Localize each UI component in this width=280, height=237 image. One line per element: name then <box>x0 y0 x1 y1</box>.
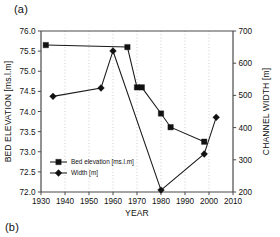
y-left-tick-label: 73.5 <box>20 128 36 137</box>
data-point-width <box>98 85 105 92</box>
y-right-tick-label: 500 <box>239 91 253 100</box>
x-tick-label: 2000 <box>200 197 219 206</box>
data-point-bed-elevation <box>202 139 207 144</box>
x-tick-label: 2010 <box>224 197 243 206</box>
x-tick-label: 1940 <box>56 197 75 206</box>
x-tick-label: 1970 <box>128 197 147 206</box>
y-left-tick-label: 73.0 <box>20 148 36 157</box>
data-point-width <box>110 48 117 55</box>
chart-legend: Bed elevation [ms.l.m]Width [m] <box>50 158 134 177</box>
axis-ticks <box>38 31 236 195</box>
data-point-width <box>213 114 220 121</box>
panel-label-a: (a) <box>14 3 28 15</box>
y-left-tick-label: 74.5 <box>20 87 36 96</box>
y-left-tick-label: 72.0 <box>20 188 36 197</box>
y-left-tick-label: 76.0 <box>20 27 36 36</box>
y-left-axis-title: BED ELEVATION [ms.l.m] <box>3 61 13 163</box>
legend-marker-square <box>56 159 61 164</box>
legend-item-width: Width [m] <box>71 169 98 177</box>
y-right-tick-label: 200 <box>239 188 253 197</box>
x-tick-label: 1980 <box>152 197 171 206</box>
data-point-bed-elevation <box>125 44 130 49</box>
line-chart: 19301940195019601970198019902000201072.0… <box>0 0 280 237</box>
x-tick-label: 1930 <box>32 197 51 206</box>
x-tick-label: 1960 <box>104 197 123 206</box>
data-point-bed-elevation <box>134 85 139 90</box>
x-tick-label: 1990 <box>176 197 195 206</box>
y-right-tick-label: 600 <box>239 59 253 68</box>
data-point-width <box>50 93 57 100</box>
data-series <box>43 42 220 193</box>
data-point-bed-elevation <box>168 124 173 129</box>
data-point-bed-elevation <box>43 42 48 47</box>
y-left-tick-label: 72.5 <box>20 168 36 177</box>
y-left-tick-label: 74.0 <box>20 108 36 117</box>
x-axis-title: YEAR <box>125 208 149 218</box>
y-right-axis-title: CHANNEL WIDTH [m] <box>261 68 271 155</box>
legend-marker-diamond <box>55 170 62 177</box>
y-left-tick-label: 75.0 <box>20 67 36 76</box>
x-tick-label: 1950 <box>80 197 99 206</box>
y-right-tick-label: 700 <box>239 27 253 36</box>
y-right-tick-label: 400 <box>239 124 253 133</box>
panel-label-b: (b) <box>5 221 19 233</box>
figure-panel-a: (a) (b) 19301940195019601970198019902000… <box>0 0 280 237</box>
legend-item-bed-elevation: Bed elevation [ms.l.m] <box>71 158 134 166</box>
data-point-bed-elevation <box>139 85 144 90</box>
y-right-tick-label: 300 <box>239 156 253 165</box>
y-left-tick-label: 75.5 <box>20 47 36 56</box>
data-point-bed-elevation <box>158 111 163 116</box>
